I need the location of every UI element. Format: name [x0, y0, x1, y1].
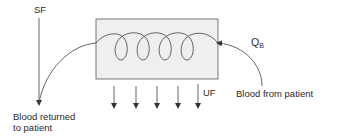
uf-label: UF: [203, 87, 216, 98]
blood-from-patient-label: Blood from patient: [236, 88, 313, 99]
qb-subscript: B: [259, 42, 264, 49]
qb-main: Q: [251, 36, 259, 48]
uf-arrows: [114, 84, 198, 106]
blood-returned-label: Blood returned to patient: [13, 111, 75, 133]
hemofiltration-diagram: SF UF QB Blood from patient Blood return…: [0, 0, 338, 140]
blood-returned-line1: Blood returned: [13, 111, 75, 122]
blood-returned-line2: to patient: [13, 122, 75, 133]
filter-box: [96, 19, 218, 79]
sf-label: SF: [34, 4, 46, 15]
qb-label: QB: [251, 37, 264, 51]
return-curve: [39, 43, 96, 103]
